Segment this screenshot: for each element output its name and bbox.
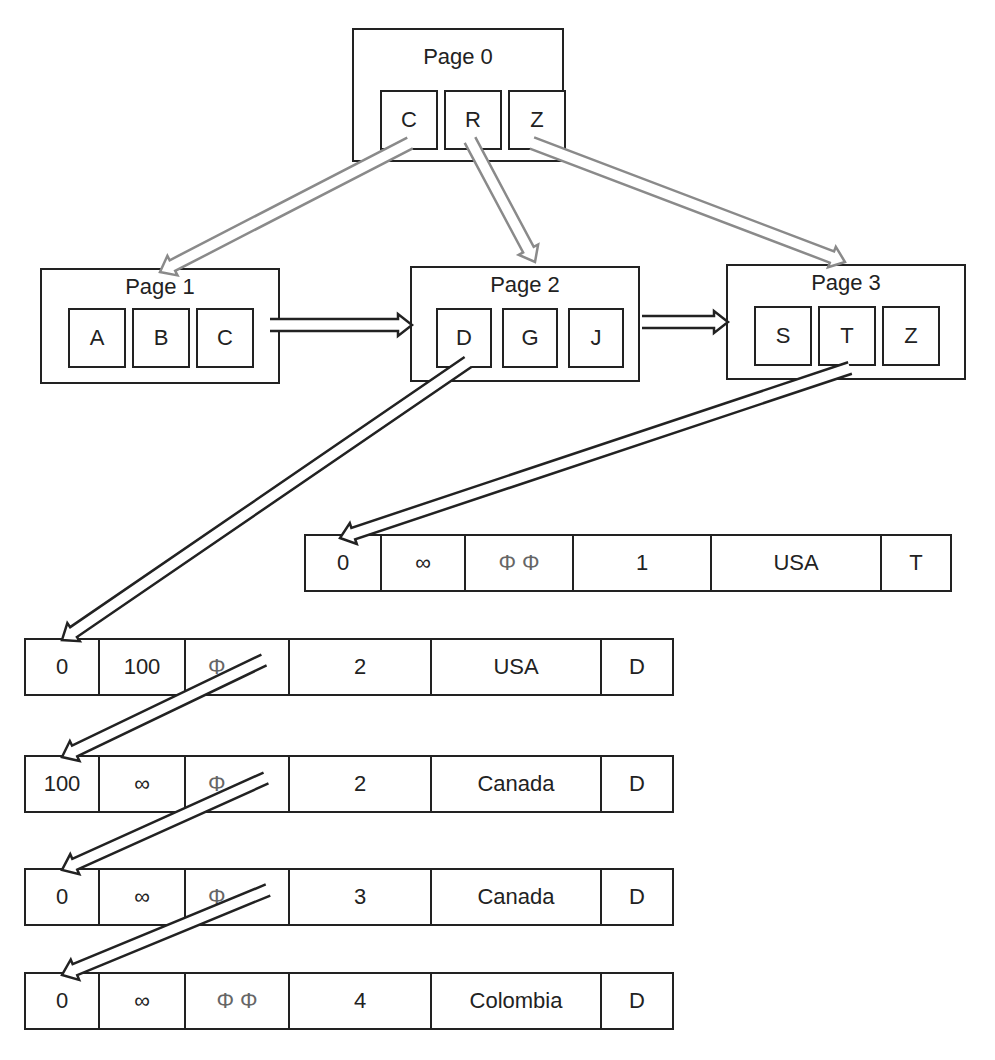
record-cell: 4: [290, 974, 432, 1028]
record-cell: 0: [306, 536, 382, 590]
key-c: C: [196, 308, 254, 368]
key-b: B: [132, 308, 190, 368]
record-cell: Φ Φ: [186, 974, 290, 1028]
arrow-page1-to-page2: [270, 314, 412, 336]
page-2: Page 2 D G J: [410, 266, 640, 382]
record-cell: 1: [574, 536, 712, 590]
key-z: Z: [508, 90, 566, 150]
record-cell: D: [602, 870, 672, 924]
record-cell: USA: [432, 640, 602, 694]
key-r: R: [444, 90, 502, 150]
arrow-z-to-page3: [530, 137, 845, 267]
page-3: Page 3 S T Z: [726, 264, 966, 380]
record-cell: D: [602, 974, 672, 1028]
record-cell: T: [882, 536, 950, 590]
record-cell: Φ: [186, 870, 290, 924]
key-j: J: [568, 308, 624, 368]
page-title: Page 3: [728, 270, 964, 296]
arrow-d-to-record: [62, 357, 471, 641]
record-cell: ∞: [100, 974, 186, 1028]
record-cell: Canada: [432, 757, 602, 811]
page-1: Page 1 A B C: [40, 268, 280, 384]
record-cell: 2: [290, 757, 432, 811]
record-cell: 0: [26, 974, 100, 1028]
record-cell: Φ: [186, 757, 290, 811]
record-cell: Colombia: [432, 974, 602, 1028]
arrow-page2-to-page3: [642, 311, 728, 333]
record-cell: Canada: [432, 870, 602, 924]
record-cell: ∞: [382, 536, 466, 590]
record-cell: 2: [290, 640, 432, 694]
page-0: Page 0 C R Z: [352, 28, 564, 162]
key-s: S: [754, 306, 812, 366]
record-cell: ∞: [100, 757, 186, 811]
record-cell: Φ Φ: [466, 536, 574, 590]
record-cell: 100: [26, 757, 100, 811]
record-cell: USA: [712, 536, 882, 590]
key-d: D: [436, 308, 492, 368]
arrow-t-to-record: [340, 362, 852, 544]
key-a: A: [68, 308, 126, 368]
record-cell: D: [602, 640, 672, 694]
key-c: C: [380, 90, 438, 150]
record-cell: ∞: [100, 870, 186, 924]
record-cell: 0: [26, 640, 100, 694]
record-cell: Φ: [186, 640, 290, 694]
record-row: 100 ∞ Φ 2 Canada D: [24, 755, 674, 813]
record-row: 0 ∞ Φ Φ 4 Colombia D: [24, 972, 674, 1030]
key-t: T: [818, 306, 876, 366]
page-title: Page 2: [412, 272, 638, 298]
record-row: 0 100 Φ 2 USA D: [24, 638, 674, 696]
key-g: G: [502, 308, 558, 368]
record-cell: 3: [290, 870, 432, 924]
record-row: 0 ∞ Φ Φ 1 USA T: [304, 534, 952, 592]
key-z: Z: [882, 306, 940, 366]
record-cell: 100: [100, 640, 186, 694]
page-title: Page 0: [354, 44, 562, 70]
record-cell: D: [602, 757, 672, 811]
record-row: 0 ∞ Φ 3 Canada D: [24, 868, 674, 926]
page-title: Page 1: [42, 274, 278, 300]
record-cell: 0: [26, 870, 100, 924]
